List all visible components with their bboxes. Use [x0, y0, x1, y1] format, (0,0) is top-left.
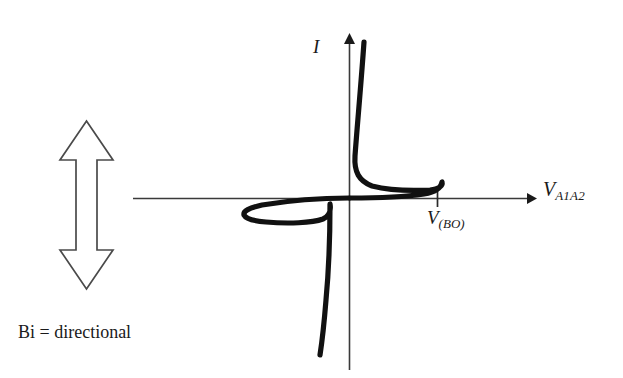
breakover-voltage-label: V(BO): [427, 207, 465, 229]
breakover-subscript: (BO): [439, 216, 465, 231]
voltage-axis-label: VA1A2: [543, 178, 585, 201]
current-axis-label: I: [313, 36, 319, 58]
bidirectional-caption: Bi = directional: [18, 322, 131, 343]
voltage-axis-subscript: A1A2: [555, 188, 585, 203]
breakover-symbol: V: [427, 207, 439, 228]
voltage-axis-symbol: V: [543, 178, 555, 200]
